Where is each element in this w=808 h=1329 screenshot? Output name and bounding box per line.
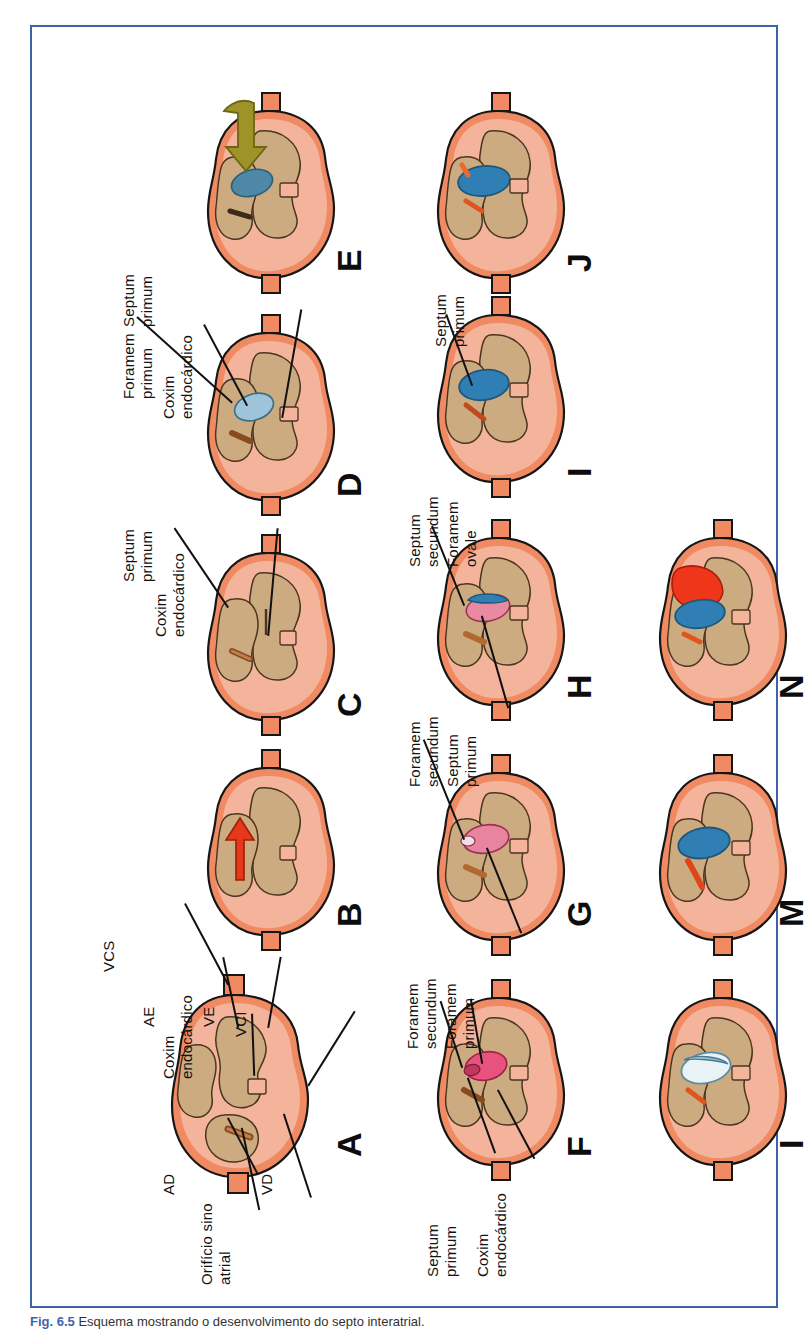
- label-septum-primum-C-l2: primum: [138, 531, 155, 582]
- label-septum-primum-F-l1: Septum: [424, 1224, 441, 1277]
- label-coxim-D-l1: Coxim: [160, 375, 177, 419]
- label-orificio-l1: Orifício sino: [198, 1203, 215, 1285]
- label-septum-primum-G-l1: Septum: [444, 734, 461, 787]
- panel-letter-H: H: [562, 674, 596, 699]
- label-vci: VCI: [232, 1011, 249, 1037]
- panel-letter-L: I: [774, 1140, 808, 1149]
- label-coxim-A-l1: Coxim: [160, 1035, 177, 1079]
- figure-caption-text: Esquema mostrando o desenvolvimento do s…: [78, 1314, 424, 1329]
- label-coxim-C-l2: endocárdico: [170, 553, 187, 637]
- panel-letter-M: M: [774, 899, 808, 927]
- figure-frame: VCS AE Coxim endocárdico VE VCI AD Orifí…: [30, 25, 778, 1308]
- label-vcs: VCS: [100, 941, 117, 972]
- label-septum-secundum-H-l2: secundum: [424, 496, 441, 567]
- label-foramem-secundum-F-l2: secundum: [422, 978, 439, 1049]
- label-septum-primum-I-l1: Septum: [432, 294, 449, 347]
- panel-letter-D: D: [332, 472, 366, 497]
- label-septum-primum-I-l2: primum: [450, 296, 467, 347]
- label-foramem-ovale-H-l2: ovale: [462, 530, 479, 567]
- label-coxim-A-l2: endocárdico: [178, 995, 195, 1079]
- label-septum-primum-D-l2: primum: [138, 276, 155, 327]
- label-septum-primum-C-l1: Septum: [120, 529, 137, 582]
- panel-letter-F: F: [562, 1136, 596, 1157]
- panel-letter-J: J: [562, 253, 596, 272]
- label-foramem-secundum-F-l1: Foramem: [404, 983, 421, 1049]
- label-coxim-C-l1: Coxim: [152, 593, 169, 637]
- label-septum-primum-G-l2: primum: [462, 736, 479, 787]
- panel-letter-I-top: I: [562, 468, 596, 477]
- label-septum-secundum-H-l1: Septum: [406, 514, 423, 567]
- label-coxim-D-l2: endocárdico: [178, 335, 195, 419]
- panel-letter-G: G: [562, 901, 596, 927]
- label-foramem-primum-D-l2: primum: [138, 348, 155, 399]
- label-septum-primum-F-l2: primum: [442, 1226, 459, 1277]
- label-coxim-F-l1: Coxim: [474, 1233, 491, 1277]
- label-foramem-primum-F-l1: Foramem: [442, 983, 459, 1049]
- panel-letter-E: E: [332, 249, 366, 272]
- label-foramem-secundum-G-l2: secundum: [424, 716, 441, 787]
- label-ad: AD: [160, 1174, 177, 1195]
- label-foramem-secundum-G-l1: Foramem: [406, 721, 423, 787]
- panel-letter-N: N: [774, 674, 808, 699]
- label-vd: VD: [258, 1174, 275, 1195]
- label-foramem-ovale-H-l1: Foramem: [444, 501, 461, 567]
- label-ae: AE: [140, 1007, 157, 1027]
- label-coxim-F-l2: endocárdico: [492, 1193, 509, 1277]
- label-foramem-primum-F-l2: primum: [460, 998, 477, 1049]
- label-foramem-primum-D-l1: Foramem: [120, 333, 137, 399]
- label-orificio-l2: atrial: [216, 1251, 233, 1285]
- panel-letter-B: B: [332, 902, 366, 927]
- label-ve: VE: [200, 1007, 217, 1027]
- figure-number: Fig. 6.5: [30, 1314, 75, 1329]
- label-septum-primum-D-l1: Septum: [120, 274, 137, 327]
- panel-letter-C: C: [332, 692, 366, 717]
- figure-caption: Fig. 6.5 Esquema mostrando o desenvolvim…: [30, 1314, 750, 1329]
- panel-letter-A: A: [332, 1132, 366, 1157]
